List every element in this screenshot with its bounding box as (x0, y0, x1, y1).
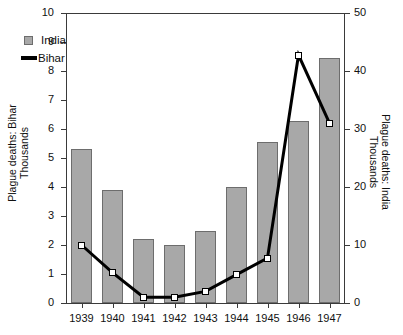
y-axis-left-tick-label: 0 (14, 296, 54, 308)
x-axis-tick (144, 303, 145, 308)
plot-area: 012345678910 01020304050 193919401941194… (66, 13, 345, 303)
legend-label-bihar: Bihar (38, 52, 65, 64)
y-axis-right-tick (345, 13, 350, 14)
x-axis-tick (175, 303, 176, 308)
line-marker-icon (21, 56, 37, 60)
square-marker-icon (24, 36, 33, 45)
x-axis-tick (206, 303, 207, 308)
y-axis-right-tick-label: 20 (354, 180, 394, 192)
y-axis-right-tick (345, 187, 350, 188)
data-point-marker (171, 294, 178, 301)
y-axis-right-tick-label: 40 (354, 64, 394, 76)
legend-item-bihar: Bihar (24, 50, 66, 66)
data-point-marker (233, 271, 240, 278)
y-axis-left-tick-label: 4 (14, 180, 54, 192)
y-axis-left-tick-label: 10 (14, 6, 54, 18)
bihar-polyline (82, 55, 330, 297)
y-axis-right-tick (345, 303, 350, 304)
y-axis-left-tick-label: 7 (14, 93, 54, 105)
y-axis-left-tick (61, 303, 66, 304)
y-axis-right-tick-label: 30 (354, 122, 394, 134)
data-point-marker (295, 52, 302, 59)
y-axis-right-tick (345, 71, 350, 72)
x-axis-tick-label: 1947 (307, 312, 353, 324)
y-axis-right-tick-label: 10 (354, 238, 394, 250)
data-point-marker (78, 242, 85, 249)
legend-item-india: India (24, 32, 66, 48)
x-axis-tick (330, 303, 331, 308)
y-axis-left-tick-label: 1 (14, 267, 54, 279)
plague-deaths-chart: Plague deaths: Bihar Thousands Plague de… (0, 0, 403, 335)
data-point-marker (140, 294, 147, 301)
y-axis-right-tick-label: 0 (354, 296, 394, 308)
legend: India Bihar (24, 32, 66, 68)
data-point-marker (202, 288, 209, 295)
y-axis-left-tick-label: 2 (14, 238, 54, 250)
y-axis-left-tick-label: 5 (14, 151, 54, 163)
y-axis-right-tick-label: 50 (354, 6, 394, 18)
y-axis-right-tick (345, 129, 350, 130)
x-axis-tick (113, 303, 114, 308)
x-axis-tick (268, 303, 269, 308)
legend-label-india: India (41, 34, 66, 46)
y-axis-left-tick-label: 6 (14, 122, 54, 134)
x-axis-tick (237, 303, 238, 308)
y-axis-right-title: Plague deaths: India Thousands (368, 92, 392, 232)
line-series-bihar (66, 13, 345, 303)
y-axis-right-tick (345, 245, 350, 246)
x-axis-tick (299, 303, 300, 308)
x-axis-tick (82, 303, 83, 308)
data-point-marker (109, 269, 116, 276)
data-point-marker (264, 255, 271, 262)
y-axis-left-tick-label: 3 (14, 209, 54, 221)
y-axis-right-title-line2: Thousands (368, 92, 380, 232)
data-point-marker (326, 120, 333, 127)
